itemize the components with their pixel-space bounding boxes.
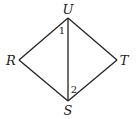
angle-label-2: 2 (71, 84, 77, 95)
vertex-label-t: T (120, 53, 130, 68)
segment-ut (68, 18, 117, 60)
segment-rs (19, 60, 68, 101)
geometry-diagram: U R T S 1 2 (0, 0, 136, 119)
vertex-label-u: U (63, 2, 75, 17)
angle-label-1: 1 (59, 25, 65, 36)
vertex-label-s: S (64, 103, 73, 118)
vertex-label-r: R (5, 53, 16, 68)
